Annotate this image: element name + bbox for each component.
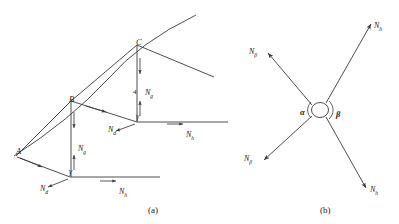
force-subscript: d [45,189,48,195]
force-subscript: d [113,130,116,136]
arrow-nbeta-top-left [268,53,312,105]
force-label-nd-upper: Nd [108,126,116,136]
alpha-arc [308,102,311,118]
force-label-nh-top-right: Nh [374,22,382,32]
force-subscript: β [249,159,252,165]
force-label-ng-upper: Ng [145,89,153,99]
arrow-b-diagonal [86,106,106,112]
force-subscript: h [379,26,382,32]
arrow-nh-bottom-right [326,117,366,188]
angle-label-gamma-lower: γ [69,168,72,176]
force-label-nbeta-bottom-left: Nβ [244,155,252,165]
angle-label-beta: β [336,110,340,119]
chord-a-b [16,101,71,156]
figure-root: A B C γ γ 4 Nd Ng Nh Nd Ng Nh α β Nh Nβ … [0,0,399,224]
main-arc [14,15,196,156]
point-label-c: C [136,38,142,47]
point-label-b: B [69,95,74,104]
arrow-nbeta-bottom-left [264,116,312,160]
caption-panel-a: (a) [148,205,158,215]
force-subscript: h [375,190,378,196]
force-subscript: h [191,135,194,141]
numeric-label-4: 4 [133,89,137,96]
arrow-nh-top-right [326,24,371,103]
beta-arc [329,101,333,119]
force-label-nbeta-top-left: Nβ [249,48,257,58]
arrow-a-diagonal [20,158,42,167]
arrow-force-nd-lower [48,179,68,187]
force-subscript: g [150,93,153,99]
arrow-force-nd-upper [116,124,135,131]
force-label-ng-lower: Ng [78,145,86,155]
panel-a-geometry [14,15,228,177]
caption-panel-b: (b) [320,205,331,215]
tangent-at-c [137,45,214,77]
force-label-nh-upper: Nh [186,131,194,141]
center-node [312,103,329,118]
force-subscript: β [254,52,257,58]
angle-label-alpha: α [300,108,305,117]
point-label-a: A [16,147,21,156]
panel-b-force-arrows [264,24,371,188]
angle-label-gamma-upper: γ [136,113,139,121]
force-label-nh-lower: Nh [119,188,127,198]
force-label-nh-bottom-right: Nh [370,186,378,196]
force-subscript: g [83,149,86,155]
chord-b-c [71,45,137,101]
force-label-nd-lower: Nd [40,185,48,195]
force-subscript: h [124,192,127,198]
